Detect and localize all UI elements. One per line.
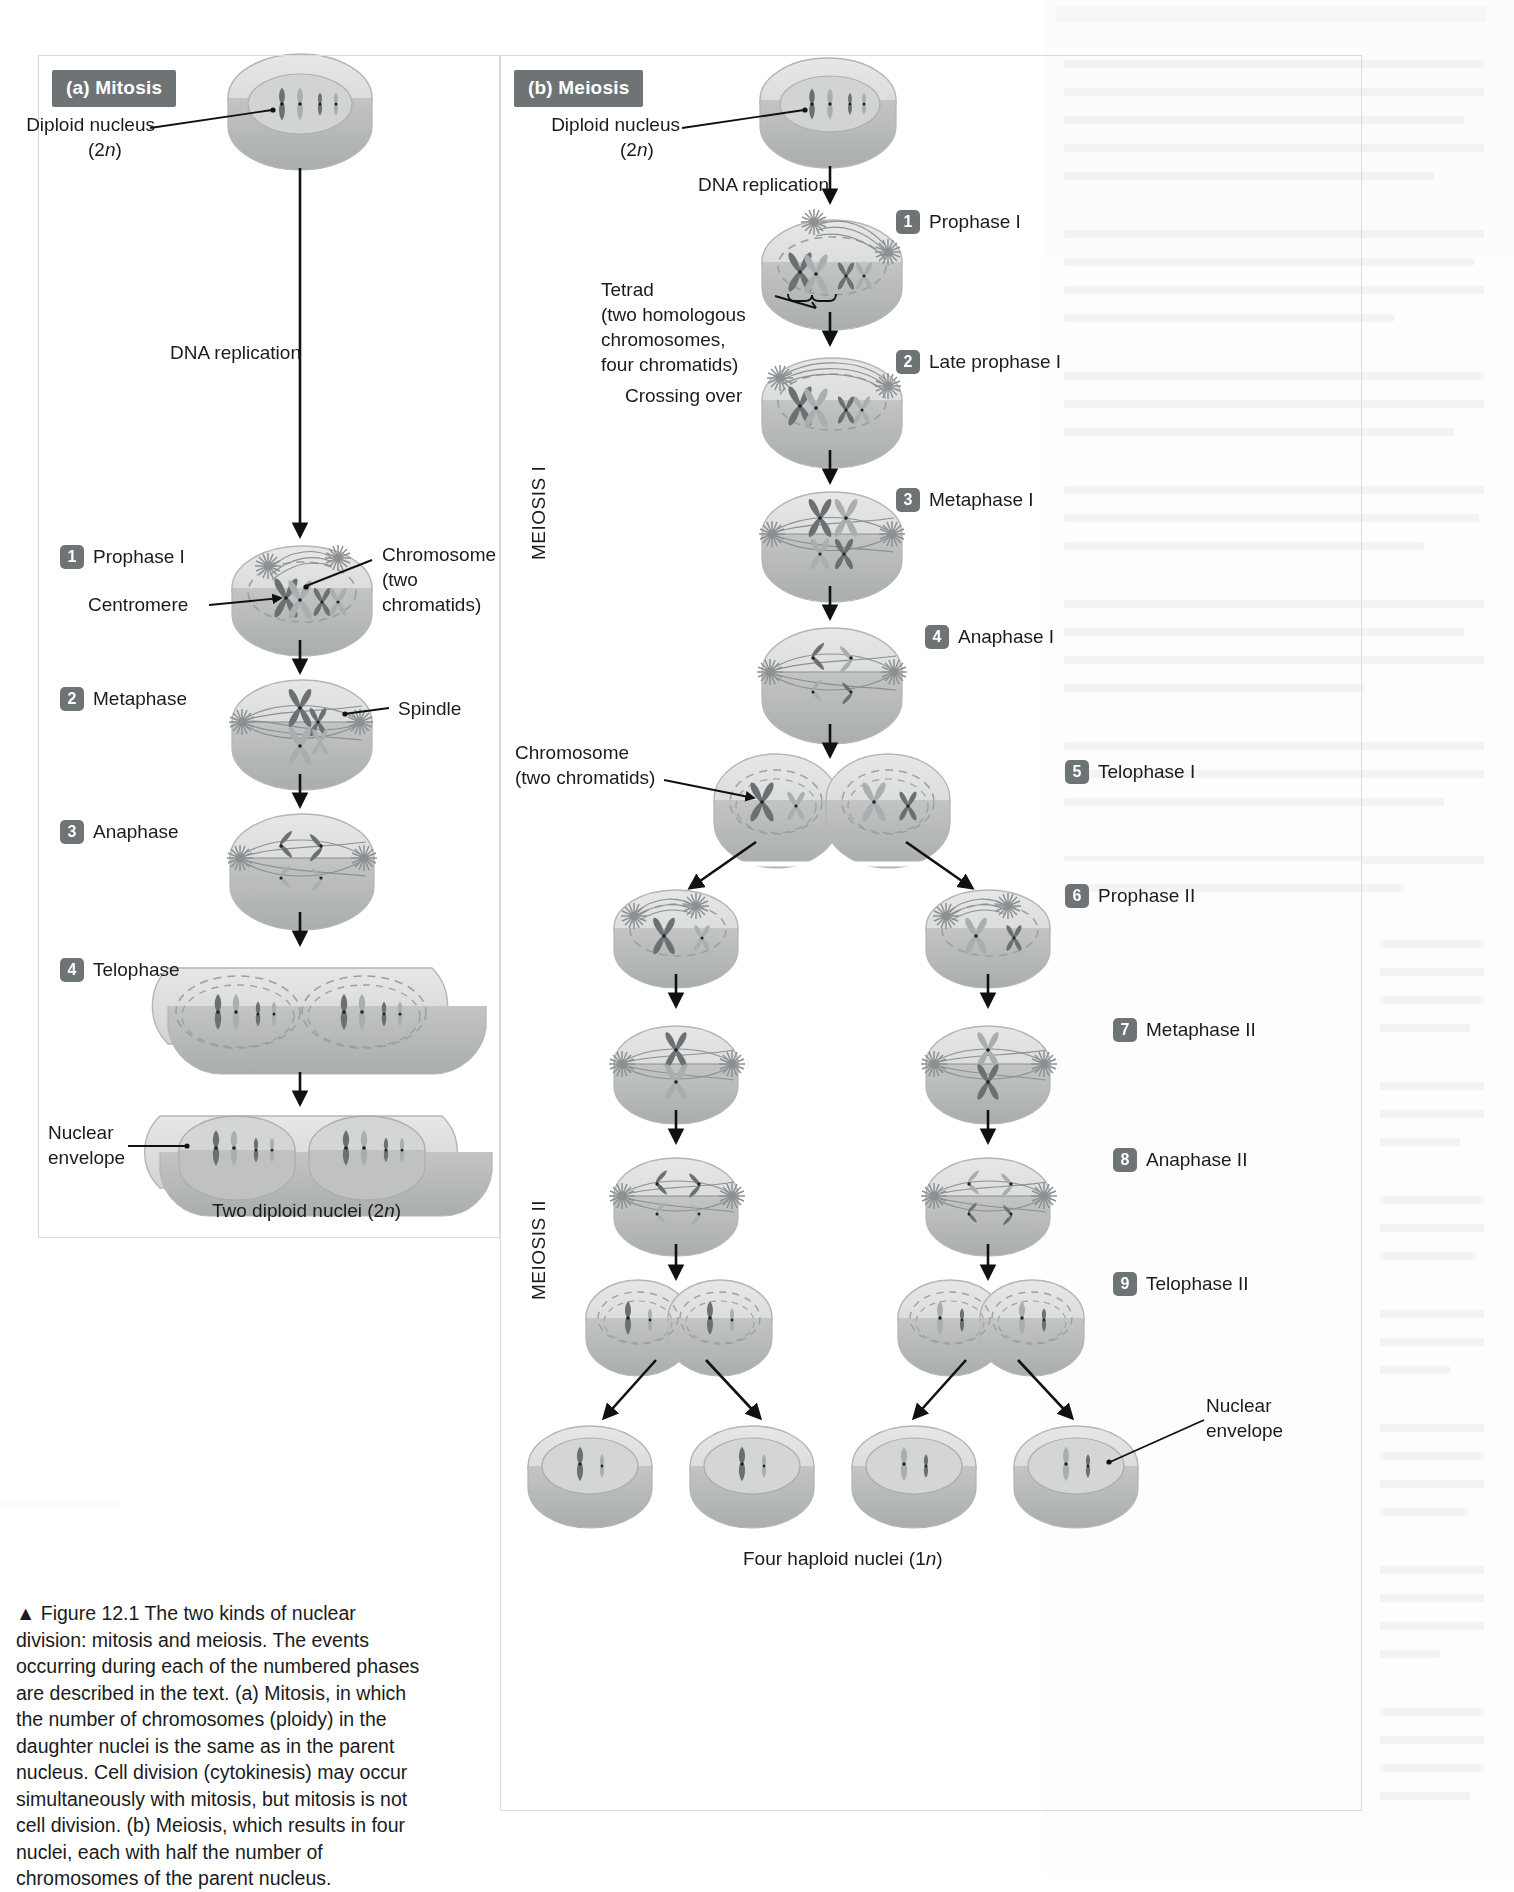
- step-number-badge: 6: [1065, 884, 1089, 908]
- meiosis-ii-division-label: MEIOSIS II: [528, 1200, 550, 1300]
- meiosis-dna-replication-label: DNA replication: [698, 172, 829, 197]
- step-label: Anaphase I: [958, 626, 1054, 648]
- mitosis-diploid-nucleus-label-line1: Diploid nucleus: [0, 112, 155, 137]
- step-number-badge: 5: [1065, 760, 1089, 784]
- step-label: Prophase I: [929, 211, 1021, 233]
- mitosis-chromosome-label-line1: Chromosome: [382, 542, 496, 567]
- step-label: Prophase I: [93, 546, 185, 568]
- step-number-badge: 2: [60, 687, 84, 711]
- meiosis-nuclear-envelope-label-line2: envelope: [1206, 1418, 1283, 1443]
- mitosis-step-3: 3 Anaphase: [60, 820, 179, 844]
- step-label: Anaphase II: [1146, 1149, 1247, 1171]
- meiosis-step-7: 7 Metaphase II: [1113, 1018, 1256, 1042]
- meiosis-step-3: 3 Metaphase I: [896, 488, 1034, 512]
- step-label: Metaphase I: [929, 489, 1034, 511]
- meiosis-step-1: 1 Prophase I: [896, 210, 1021, 234]
- meiosis-tetrad-label-line2: (two homologous: [601, 302, 746, 327]
- mitosis-step-2: 2 Metaphase: [60, 687, 187, 711]
- step-label: Metaphase: [93, 688, 187, 710]
- meiosis-step-6: 6 Prophase II: [1065, 884, 1195, 908]
- meiosis-panel-tag: (b) Meiosis: [514, 70, 643, 107]
- mitosis-diploid-nucleus-label-line2: (2n): [88, 137, 122, 162]
- mitosis-nuclear-envelope-label-line2: envelope: [48, 1145, 125, 1170]
- mitosis-chromosome-label-line3: chromatids): [382, 592, 481, 617]
- meiosis-chromosome-label-line2: (two chromatids): [515, 765, 655, 790]
- step-number-badge: 2: [896, 350, 920, 374]
- mitosis-spindle-label: Spindle: [398, 696, 461, 721]
- step-label: Late prophase I: [929, 351, 1061, 373]
- step-label: Prophase II: [1098, 885, 1195, 907]
- mitosis-step-4: 4 Telophase: [60, 958, 180, 982]
- step-number-badge: 4: [60, 958, 84, 982]
- meiosis-diploid-nucleus-label-line2: (2n): [620, 137, 654, 162]
- step-number-badge: 7: [1113, 1018, 1137, 1042]
- meiosis-tetrad-label-line1: Tetrad: [601, 277, 654, 302]
- step-number-badge: 1: [896, 210, 920, 234]
- step-number-badge: 8: [1113, 1148, 1137, 1172]
- mitosis-chromosome-label-line2: (two: [382, 567, 418, 592]
- step-label: Telophase II: [1146, 1273, 1248, 1295]
- meiosis-i-division-label: MEIOSIS I: [528, 466, 550, 560]
- meiosis-chromosome-label-line1: Chromosome: [515, 740, 629, 765]
- mitosis-panel: [38, 55, 500, 1238]
- step-number-badge: 1: [60, 545, 84, 569]
- meiosis-crossing-over-label: Crossing over: [625, 383, 742, 408]
- meiosis-step-8: 8 Anaphase II: [1113, 1148, 1247, 1172]
- mitosis-panel-tag: (a) Mitosis: [52, 70, 176, 107]
- meiosis-step-9: 9 Telophase II: [1113, 1272, 1248, 1296]
- step-number-badge: 4: [925, 625, 949, 649]
- step-number-badge: 3: [60, 820, 84, 844]
- figure-caption: ▲ Figure 12.1 The two kinds of nuclear d…: [16, 1600, 431, 1892]
- meiosis-step-4: 4 Anaphase I: [925, 625, 1054, 649]
- step-label: Telophase: [93, 959, 180, 981]
- mitosis-nuclear-envelope-label-line1: Nuclear: [48, 1120, 113, 1145]
- step-number-badge: 9: [1113, 1272, 1137, 1296]
- mitosis-dna-replication-label: DNA replication: [170, 340, 301, 365]
- meiosis-tetrad-label-line3: chromosomes,: [601, 327, 726, 352]
- mitosis-result-caption: Two diploid nuclei (2n): [212, 1200, 401, 1222]
- meiosis-nuclear-envelope-label-line1: Nuclear: [1206, 1393, 1271, 1418]
- meiosis-result-caption: Four haploid nuclei (1n): [743, 1548, 943, 1570]
- bleed-heading: [1056, 6, 1486, 22]
- mitosis-step-1: 1 Prophase I: [60, 545, 185, 569]
- meiosis-tetrad-label-line4: four chromatids): [601, 352, 738, 377]
- meiosis-diploid-nucleus-label-line1: Diploid nucleus: [505, 112, 680, 137]
- meiosis-step-5: 5 Telophase I: [1065, 760, 1195, 784]
- meiosis-step-2: 2 Late prophase I: [896, 350, 1061, 374]
- step-number-badge: 3: [896, 488, 920, 512]
- mitosis-centromere-label: Centromere: [88, 592, 188, 617]
- step-label: Telophase I: [1098, 761, 1195, 783]
- step-label: Anaphase: [93, 821, 179, 843]
- step-label: Metaphase II: [1146, 1019, 1256, 1041]
